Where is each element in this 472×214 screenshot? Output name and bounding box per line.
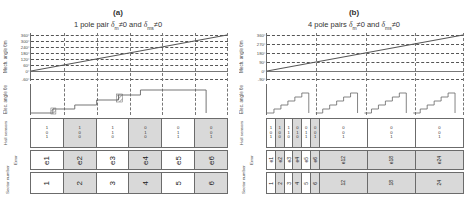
hall-cell: 1 0 1	[266, 118, 275, 148]
sector-cell: 6	[194, 172, 228, 194]
hall-bit: 1	[342, 135, 344, 140]
panel-b-elec-axis-label: Elec. angle θe	[239, 85, 244, 114]
panel-b-mech-ramp-line	[267, 33, 464, 81]
error-label: e3	[286, 157, 292, 163]
panel-a-elec-plot: Elec. angle θe	[30, 84, 228, 115]
panel-b-mech-plot: Mech. angle θm 360° 270° 180° 90° 0° -90…	[266, 33, 464, 81]
panel-b: (b) 4 pole pairs δm≠0 and δms≠0 Mech. an…	[236, 0, 472, 214]
hall-bit: 0	[296, 135, 298, 140]
hall-bit: 1	[305, 135, 307, 140]
panel-a-mech-axis-label: Mech. angle θm	[3, 35, 8, 79]
panel-a-title-mid: ≠0 and	[119, 20, 144, 29]
sector-cell: 5	[301, 172, 310, 194]
sector-number: 6	[207, 181, 216, 185]
panel-a: (a) 1 pole pair δm≠0 and δms≠0 Mech. ang…	[0, 0, 236, 214]
panel-b-title-prefix: 4 pole pairs	[308, 20, 349, 29]
figure-container: (a) 1 pole pair δm≠0 and δms≠0 Mech. ang…	[0, 0, 472, 214]
panel-a-title: 1 pole pair δm≠0 and δms≠0	[0, 20, 236, 31]
error-label: e1	[268, 157, 274, 163]
panel-b-tag: (b)	[236, 8, 472, 17]
error-label: e4	[294, 157, 300, 163]
hall-bit: 0	[79, 135, 81, 140]
sector-cell: 24	[415, 172, 464, 194]
hall-cell: 0 0 1	[319, 118, 367, 148]
hall-bit: 0	[144, 135, 146, 140]
sector-number: 1	[42, 181, 51, 185]
error-cell: e6	[194, 150, 228, 170]
hall-bit: 0	[287, 135, 289, 140]
error-label: e1	[42, 156, 51, 165]
hall-cell: 0 1 0	[128, 118, 161, 148]
error-cell: e3	[96, 150, 129, 170]
panel-b-delta2-sub: ms	[385, 25, 392, 31]
sector-number: 3	[286, 182, 292, 185]
panel-a-tick-60: 60°	[23, 63, 31, 68]
panel-b-title: 4 pole pairs δm≠0 and δms≠0	[236, 20, 472, 31]
error-label: e18	[388, 156, 394, 164]
hall-bit: 1	[438, 135, 440, 140]
error-label: e4	[141, 156, 150, 165]
sector-number: 5	[174, 181, 183, 185]
sector-cell: 4	[292, 172, 301, 194]
panel-b-sector-row: 1 2 3 4 5 6 12 18 24	[266, 172, 464, 194]
panel-a-tick-360: 360°	[21, 33, 31, 38]
panel-b-tick-90: 90°	[259, 60, 267, 65]
panel-b-tick-270: 270°	[257, 42, 267, 47]
error-label: e2	[75, 156, 84, 165]
panel-b-tick-180: 180°	[257, 51, 267, 56]
hall-cell: 0 1 1	[161, 118, 194, 148]
sector-number: 5	[303, 182, 309, 185]
error-cell: e24	[415, 150, 464, 170]
hall-bit: 1	[210, 135, 212, 140]
panel-b-elec-plot: Elec. angle θe	[266, 84, 464, 115]
panel-a-error-label: Error	[14, 150, 26, 170]
panel-a-title-end: ≠0	[154, 20, 162, 29]
panel-a-mech-ramp-line	[31, 33, 228, 81]
error-label: e6	[207, 156, 216, 165]
sector-cell: 5	[161, 172, 194, 194]
panel-a-hall-label: Hall sensors	[4, 118, 26, 148]
panel-a-error-row: e1 e2 e3 e4 e5 e6	[30, 150, 228, 170]
sector-cell: 6	[310, 172, 319, 194]
panel-a-mech-plot: Mech. angle θm 360° 300° 240° 180° 120° …	[30, 33, 228, 81]
hall-bit: 1	[46, 135, 48, 140]
hall-cell: 1 0 0	[275, 118, 284, 148]
error-cell: e4	[292, 150, 301, 170]
sector-cell: 12	[319, 172, 367, 194]
error-label: e2	[277, 157, 283, 163]
panel-a-title-prefix: 1 pole pair	[74, 20, 111, 29]
error-label: e6	[312, 157, 318, 163]
panel-a-tick-neg60: -60°	[22, 77, 31, 82]
error-label: e12	[340, 156, 346, 164]
hall-bit: 0	[279, 135, 281, 140]
hall-bit: 1	[177, 135, 179, 140]
hall-bit: 1	[390, 135, 392, 140]
hall-bit: 1	[314, 135, 316, 140]
panel-b-tick-360: 360°	[257, 33, 267, 38]
error-cell: e2	[275, 150, 284, 170]
hall-cell: 0 1 0	[292, 118, 301, 148]
panel-a-elec-axis-label: Elec. angle θe	[3, 85, 8, 114]
error-cell: e3	[284, 150, 293, 170]
hall-cell: 0 0 1	[310, 118, 319, 148]
panel-a-tick-300: 300°	[21, 39, 31, 44]
sector-number: 24	[436, 180, 442, 186]
sector-number: 3	[108, 181, 117, 185]
panel-a-sector-label: Sector number	[6, 172, 26, 194]
error-label: e24	[436, 156, 442, 164]
panel-a-tick-180: 180°	[21, 51, 31, 56]
error-cell: e1	[30, 150, 63, 170]
panel-a-elec-staircase	[31, 84, 228, 115]
error-cell: e1	[266, 150, 275, 170]
panel-b-title-end: ≠0	[392, 20, 400, 29]
sector-cell: 18	[367, 172, 415, 194]
panel-b-hall-label: Hall sensors	[240, 118, 262, 148]
sector-cell: 3	[96, 172, 129, 194]
error-cell: e12	[319, 150, 367, 170]
panel-a-tick-240: 240°	[21, 45, 31, 50]
panel-b-error-row: e1 e2 e3 e4 e5 e6 e12 e18 e24	[266, 150, 464, 170]
panel-b-elec-staircase	[267, 84, 464, 115]
panel-a-sector-row: 1 2 3 4 5 6	[30, 172, 228, 194]
error-cell: e18	[367, 150, 415, 170]
hall-cell: 1 0 0	[63, 118, 96, 148]
